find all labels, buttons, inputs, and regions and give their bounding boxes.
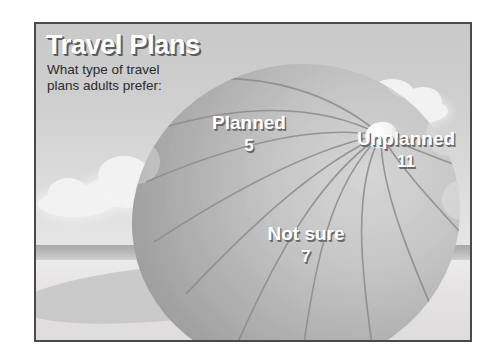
slice-label-not-sure: Not sure 7 xyxy=(236,223,376,267)
slice-label-unplanned-value: 11 xyxy=(336,152,472,172)
slice-label-planned: Planned 5 xyxy=(184,112,314,156)
slice-label-planned-name: Planned xyxy=(184,112,314,134)
subtitle-text: What type of travel plans adults prefer: xyxy=(47,62,162,94)
slice-label-not-sure-name: Not sure xyxy=(236,223,376,245)
cloud-icon xyxy=(38,191,112,217)
slice-label-unplanned-name: Unplanned xyxy=(336,128,472,150)
beach-umbrella-icon xyxy=(128,42,468,342)
slice-label-planned-value: 5 xyxy=(184,136,314,156)
slice-label-not-sure-value: 7 xyxy=(236,247,376,267)
page-title: Travel Plans xyxy=(46,30,200,61)
slice-label-unplanned: Unplanned 11 xyxy=(336,128,472,172)
screenshot-canvas: Travel Plans What type of travel plans a… xyxy=(0,0,496,363)
infographic-panel: Travel Plans What type of travel plans a… xyxy=(34,22,472,342)
